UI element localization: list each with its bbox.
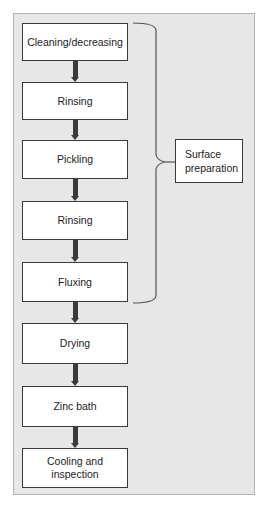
curly-brace-icon	[0, 0, 264, 508]
group-label: Surface preparation	[185, 148, 238, 174]
group-label-surface-preparation: Surface preparation	[175, 139, 243, 183]
